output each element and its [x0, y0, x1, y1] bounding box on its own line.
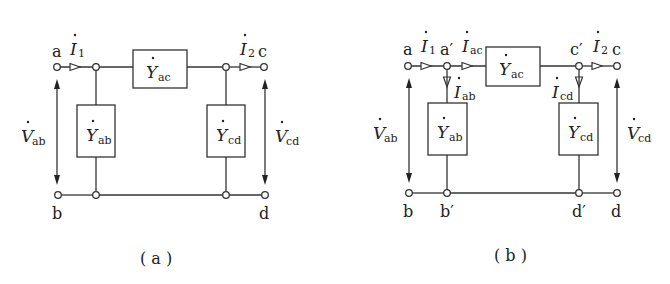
node-c-prime: [576, 63, 583, 70]
svg-text:ab: ab: [32, 135, 46, 148]
current-arrow-i1: [421, 63, 431, 70]
node: [223, 64, 230, 71]
node-label-a-prime: a′: [440, 40, 454, 59]
current-arrow-i2: [592, 63, 602, 70]
current-label-iab: I ab: [453, 77, 476, 103]
terminal-c: [614, 63, 621, 70]
svg-text:ab: ab: [384, 132, 398, 145]
node: [223, 192, 230, 199]
svg-text:cd: cd: [638, 132, 651, 145]
svg-text:I: I: [239, 39, 247, 59]
voltage-arrow-vab: [54, 79, 60, 185]
panel-a: a c b d I 1 I 2 Y ac Y ab Y: [21, 34, 299, 268]
svg-text:I: I: [420, 36, 428, 56]
svg-text:cd: cd: [228, 134, 241, 147]
svg-text:1: 1: [78, 47, 85, 60]
current-arrow-iac: [462, 63, 472, 70]
svg-text:ac: ac: [511, 68, 524, 81]
svg-text:cd: cd: [560, 90, 573, 103]
svg-text:I: I: [461, 36, 469, 56]
node: [93, 192, 100, 199]
current-label-icd: I cd: [551, 77, 573, 103]
svg-text:ac: ac: [158, 71, 171, 84]
terminal-a: [405, 63, 412, 70]
svg-text:ab: ab: [449, 131, 463, 144]
current-arrow-i1: [70, 64, 80, 71]
current-label-i1: I 1: [420, 31, 436, 57]
caption-b: ( b ): [494, 246, 527, 265]
terminal-label-d: d: [611, 202, 621, 221]
svg-text:ab: ab: [462, 90, 476, 103]
current-arrow-i2: [240, 64, 250, 71]
panel-b: a a′ c′ c b b′ d′ d I 1 I ac I ab I cd: [373, 31, 651, 265]
svg-text:1: 1: [429, 44, 436, 57]
terminal-label-c: c: [612, 40, 621, 59]
voltage-label-vcd: V cd: [275, 121, 299, 148]
svg-text:2: 2: [248, 47, 255, 60]
svg-text:ab: ab: [98, 134, 112, 147]
terminal-label-a: a: [403, 40, 413, 59]
terminal-b: [406, 190, 413, 197]
node-label-b-prime: b′: [440, 202, 454, 221]
voltage-label-vab: V ab: [373, 118, 398, 145]
terminal-label-c: c: [258, 42, 267, 61]
caption-a: ( a ): [140, 249, 172, 268]
current-label-i2: I 2: [239, 34, 255, 60]
terminal-b: [55, 192, 62, 199]
svg-text:I: I: [453, 82, 461, 102]
voltage-arrow-vab: [406, 78, 412, 183]
svg-text:2: 2: [601, 44, 608, 57]
current-label-i2: I 2: [592, 31, 608, 57]
node-d-prime: [576, 190, 583, 197]
terminal-label-d: d: [259, 204, 269, 223]
node-label-d-prime: d′: [572, 202, 586, 221]
voltage-label-vab: V ab: [21, 121, 46, 148]
node-b-prime: [444, 190, 451, 197]
svg-text:cd: cd: [580, 131, 593, 144]
terminal-c: [261, 64, 268, 71]
node-label-c-prime: c′: [570, 40, 583, 59]
node-a-prime: [444, 63, 451, 70]
svg-text:I: I: [69, 39, 77, 59]
terminal-d: [614, 190, 621, 197]
node: [93, 64, 100, 71]
terminal-d: [262, 192, 269, 199]
current-label-i1: I 1: [69, 34, 85, 60]
voltage-arrow-vcd: [262, 79, 268, 185]
terminal-label-b: b: [403, 202, 413, 221]
terminal-label-a: a: [52, 42, 62, 61]
terminal-label-b: b: [52, 204, 62, 223]
svg-text:I: I: [551, 82, 559, 102]
svg-text:ac: ac: [470, 44, 483, 57]
pi-network-figure: a c b d I 1 I 2 Y ac Y ab Y: [0, 0, 670, 284]
svg-text:cd: cd: [286, 135, 299, 148]
voltage-arrow-vcd: [614, 78, 620, 183]
voltage-label-vcd: V cd: [627, 118, 651, 145]
terminal-a: [54, 64, 61, 71]
svg-text:I: I: [592, 36, 600, 56]
current-label-iac: I ac: [461, 31, 483, 57]
